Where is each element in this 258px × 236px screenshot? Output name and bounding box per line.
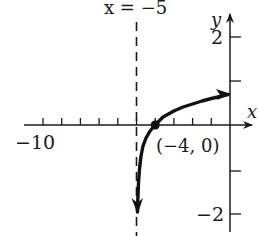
curve-arrow-right — [216, 89, 231, 100]
y-tick-label-neg2: −2 — [196, 203, 224, 225]
x-axis-label: x — [247, 101, 257, 122]
asymptote-label: x = −5 — [104, 0, 167, 18]
x-ticks — [43, 118, 211, 125]
graph: x = −5 y x 2 −2 −10 (−4, 0) — [0, 0, 258, 236]
point-label: (−4, 0) — [156, 135, 219, 156]
x-tick-label-neg10: −10 — [15, 131, 55, 153]
y-tick-label-2: 2 — [211, 26, 223, 48]
point-marker — [151, 121, 160, 130]
